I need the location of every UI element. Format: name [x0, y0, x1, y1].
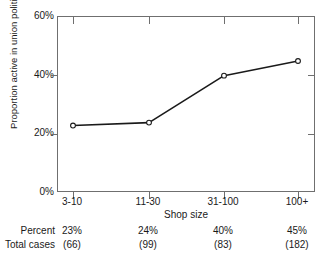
data-point-2 [147, 120, 152, 125]
data-point-3 [222, 73, 227, 78]
stats-cases-1: (66) [63, 239, 81, 250]
y-tick-label-60: 60% [14, 10, 54, 21]
stats-table: Percent Total cases 23% 24% 40% 45% (66)… [0, 225, 326, 255]
x-axis-title: Shop size [57, 209, 315, 220]
plot-area [57, 16, 315, 192]
x-tick-label-3: 31-100 [207, 196, 238, 207]
stats-cases-4: (182) [285, 239, 308, 250]
data-series-line [58, 17, 316, 193]
y-tick-mark-20 [51, 134, 58, 135]
stats-row-label-total-cases: Total cases [0, 239, 55, 250]
stats-row-label-percent: Percent [0, 225, 55, 236]
stats-percent-4: 45% [287, 225, 307, 236]
data-point-4 [296, 59, 301, 64]
stats-cases-2: (99) [139, 239, 157, 250]
stats-percent-1: 23% [62, 225, 82, 236]
series-polyline [73, 61, 298, 126]
x-tick-label-4: 100+ [286, 196, 309, 207]
y-tick-label-20: 20% [14, 127, 54, 138]
stats-cases-3: (83) [214, 239, 232, 250]
y-tick-label-0: 0% [14, 186, 54, 197]
x-tick-label-2: 11-30 [136, 196, 161, 207]
data-point-1 [71, 123, 76, 128]
stats-percent-3: 40% [213, 225, 233, 236]
series-markers [71, 59, 301, 128]
y-tick-mark-40 [51, 75, 58, 76]
stats-percent-2: 24% [138, 225, 158, 236]
figure: Proportion active in union politics 60% … [0, 0, 326, 255]
y-axis-tick-labels: 60% 40% 20% 0% [10, 0, 54, 255]
x-tick-label-1: 3-10 [62, 196, 82, 207]
y-tick-label-40: 40% [14, 69, 54, 80]
